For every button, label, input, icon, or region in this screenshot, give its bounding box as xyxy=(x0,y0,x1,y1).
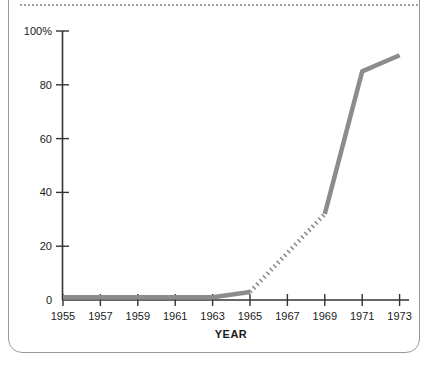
x-tick-label-1959: 1959 xyxy=(126,310,150,322)
x-axis-title: YEAR xyxy=(215,328,248,340)
line-chart-plot: 100% 80 60 40 20 0 1955 1957 1959 1961 1… xyxy=(0,0,429,368)
x-tick-label-1965: 1965 xyxy=(238,310,262,322)
x-tick-label-1957: 1957 xyxy=(88,310,112,322)
y-tick-label-20: 20 xyxy=(40,240,52,252)
x-tick-label-1969: 1969 xyxy=(313,310,337,322)
y-tick-label-40: 40 xyxy=(40,186,52,198)
y-tick-label-0: 0 xyxy=(46,294,52,306)
y-tick-label-100: 100% xyxy=(24,25,52,37)
x-tick-label-1963: 1963 xyxy=(200,310,224,322)
x-tick-label-1961: 1961 xyxy=(163,310,187,322)
x-tick-label-1973: 1973 xyxy=(387,310,411,322)
chart-figure: 100% 80 60 40 20 0 1955 1957 1959 1961 1… xyxy=(0,0,429,368)
x-tick-label-1955: 1955 xyxy=(51,310,75,322)
series-observed-late-line xyxy=(325,55,400,214)
x-tick-label-1967: 1967 xyxy=(275,310,299,322)
series-observed-early-line xyxy=(63,292,250,297)
x-tick-label-1971: 1971 xyxy=(350,310,374,322)
y-tick-label-60: 60 xyxy=(40,133,52,145)
y-tick-label-80: 80 xyxy=(40,79,52,91)
series-interpolated-line xyxy=(250,214,325,292)
